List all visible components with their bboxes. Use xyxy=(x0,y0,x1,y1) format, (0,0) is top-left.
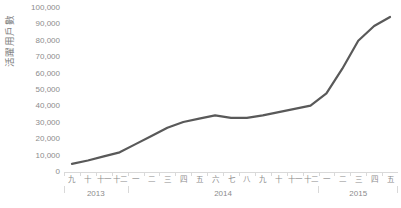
x-axis-year-groups: 201320142015 xyxy=(64,187,398,203)
y-axis-tick-30000: 30,000 xyxy=(36,119,60,127)
x-axis-tick-19: 四 xyxy=(366,173,382,187)
x-axis-tick-13: 十 xyxy=(271,173,287,187)
y-axis-tick-90000: 90,000 xyxy=(36,20,60,28)
y-axis-tick-labels: 100,00090,00080,00070,00060,00050,00040,… xyxy=(18,0,62,180)
x-axis-tick-17: 二 xyxy=(334,173,350,187)
x-axis-tick-6: 三 xyxy=(159,173,175,187)
x-axis-tick-5: 二 xyxy=(144,173,160,187)
y-axis-title: 活躍用戶數 xyxy=(0,0,18,172)
x-axis-tick-14: 十一 xyxy=(287,173,303,187)
x-axis-tick-2: 十一 xyxy=(96,173,112,187)
series-line-active-users xyxy=(64,8,398,172)
x-axis-tick-8: 五 xyxy=(191,173,207,187)
x-axis-tick-10: 七 xyxy=(223,173,239,187)
y-axis-tick-0: 0 xyxy=(56,168,60,176)
x-axis-tick-18: 三 xyxy=(350,173,366,187)
x-axis-tick-20: 五 xyxy=(382,173,398,187)
line-chart: 活躍用戶數 100,00090,00080,00070,00060,00050,… xyxy=(0,0,401,208)
y-axis-tick-60000: 60,000 xyxy=(36,70,60,78)
x-axis-tick-4: 一 xyxy=(128,173,144,187)
x-axis-tick-0: 九 xyxy=(64,173,80,187)
y-axis-tick-70000: 70,000 xyxy=(36,53,60,61)
series-polyline xyxy=(72,17,390,164)
y-axis-tick-50000: 50,000 xyxy=(36,86,60,94)
x-axis-year-2014: 2014 xyxy=(128,187,319,203)
plot-area xyxy=(64,8,398,172)
x-axis-month-labels: 九十十一十二一二三四五六七八九十十一十二一二三四五 xyxy=(64,173,398,187)
x-axis-year-2013: 2013 xyxy=(64,187,128,203)
x-axis-tick-7: 四 xyxy=(175,173,191,187)
x-axis-tick-11: 八 xyxy=(239,173,255,187)
x-axis-year-2015: 2015 xyxy=(318,187,398,203)
y-axis-tick-80000: 80,000 xyxy=(36,37,60,45)
x-axis-tick-1: 十 xyxy=(80,173,96,187)
x-axis-tick-15: 十二 xyxy=(303,173,319,187)
y-axis-tick-40000: 40,000 xyxy=(36,102,60,110)
x-axis-tick-12: 九 xyxy=(255,173,271,187)
y-axis-tick-10000: 10,000 xyxy=(36,152,60,160)
x-axis-tick-3: 十二 xyxy=(112,173,128,187)
x-axis-tick-9: 六 xyxy=(207,173,223,187)
y-axis-tick-20000: 20,000 xyxy=(36,135,60,143)
x-axis-tick-16: 一 xyxy=(319,173,335,187)
y-axis-title-text: 活躍用戶數 xyxy=(2,15,16,68)
y-axis-tick-100000: 100,000 xyxy=(31,4,60,12)
